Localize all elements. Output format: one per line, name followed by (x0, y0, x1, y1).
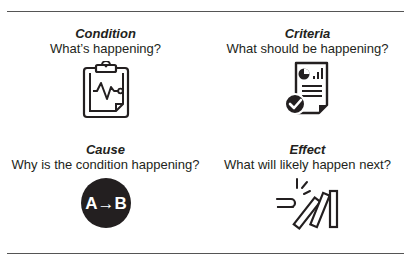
bottom-divider (7, 253, 404, 254)
report-checkmark-icon (283, 61, 333, 117)
quadrant-condition: Condition What’s happening? (3, 26, 208, 119)
falling-dominoes-icon (275, 177, 341, 231)
quadrant-cause: Cause Why is the condition happening? A→… (3, 142, 208, 229)
quadrant-title: Criteria (205, 26, 410, 41)
quadrant-effect: Effect What will likely happen next? (205, 142, 410, 231)
quadrant-title: Cause (3, 142, 208, 157)
quadrant-question: What’s happening? (3, 41, 208, 57)
quadrant-question: What will likely happen next? (205, 157, 410, 173)
svg-text:A→B: A→B (85, 194, 127, 213)
quadrant-criteria: Criteria What should be happening? (205, 26, 410, 117)
quadrant-question: What should be happening? (205, 41, 410, 57)
clipboard-heartbeat-icon (82, 61, 130, 119)
top-divider (7, 11, 404, 12)
a-to-b-icon: A→B (80, 177, 132, 229)
quadrant-title: Effect (205, 142, 410, 157)
quadrant-title: Condition (3, 26, 208, 41)
quadrant-question: Why is the condition happening? (3, 157, 208, 173)
